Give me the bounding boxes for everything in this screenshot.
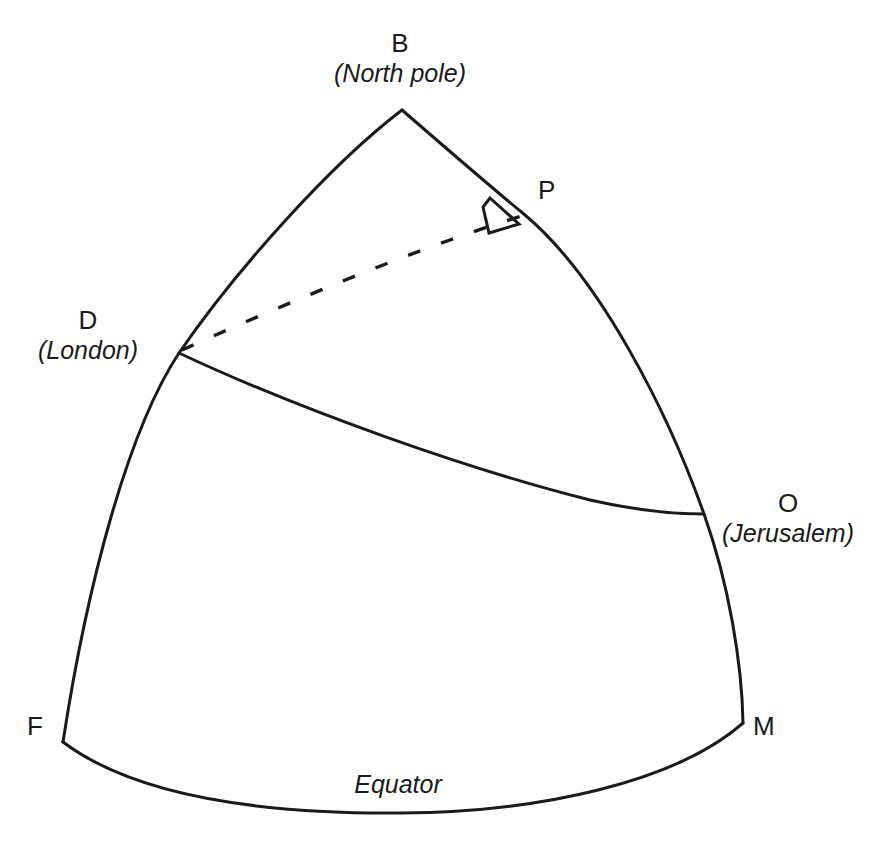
equator-label: Equator (354, 770, 442, 799)
edge-meridian-b-p-o-m (402, 110, 743, 723)
vertex-label-p: P (538, 175, 555, 206)
vertex-label-d: D (London) (38, 305, 138, 365)
edge-equator-f-m (63, 723, 743, 813)
vertex-label-m: M (753, 711, 775, 742)
vertex-place-b: (North pole) (334, 59, 466, 89)
vertex-label-b: B (North pole) (334, 28, 466, 88)
vertex-point-d: D (38, 305, 138, 336)
spherical-triangle-diagram: B (North pole) D (London) O (Jerusalem) … (0, 0, 880, 841)
diagram-canvas (0, 0, 880, 841)
vertex-place-d: (London) (38, 336, 138, 366)
vertex-point-o: O (722, 488, 854, 519)
vertex-point-p: P (538, 175, 555, 206)
vertex-label-o: O (Jerusalem) (722, 488, 854, 548)
vertex-point-m: M (753, 711, 775, 742)
vertex-point-f: F (27, 711, 43, 742)
vertex-point-b: B (334, 28, 466, 59)
vertex-label-f: F (27, 711, 43, 742)
right-angle-marker-icon (483, 198, 519, 233)
edge-meridian-b-d-f (63, 110, 402, 742)
edge-great-circle-d-o (179, 353, 704, 514)
vertex-place-o: (Jerusalem) (722, 519, 854, 549)
